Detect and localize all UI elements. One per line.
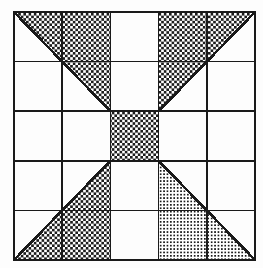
center-cell <box>110 111 158 161</box>
grid-figure-svg <box>0 0 263 268</box>
figure-canvas <box>0 0 263 268</box>
